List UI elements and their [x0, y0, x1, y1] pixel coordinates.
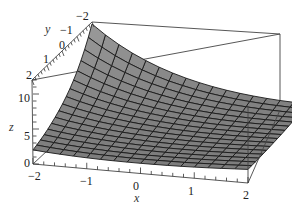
tick-mark — [44, 68, 45, 71]
tick-mark — [53, 60, 54, 63]
tick-mark — [65, 48, 66, 51]
tick-mark — [77, 37, 79, 42]
x-tick-label-neg2: −2 — [28, 169, 41, 183]
x-tick-label-1: 1 — [188, 184, 194, 198]
tick-mark — [59, 54, 60, 57]
tick-mark — [41, 71, 42, 74]
y-tick-label-0: 0 — [59, 38, 65, 52]
tick-mark — [89, 25, 90, 28]
tick-mark — [47, 66, 49, 71]
tick-mark — [56, 57, 57, 60]
z-tick-label-0: 0 — [24, 156, 30, 170]
y-tick-label-2: 2 — [26, 68, 32, 82]
tick-mark — [50, 63, 51, 66]
z-tick-label-5: 5 — [24, 129, 30, 143]
x-tick-label-neg1: −1 — [80, 174, 93, 188]
z-axis-label: z — [8, 120, 14, 134]
tick-mark — [80, 34, 81, 37]
tick-mark — [38, 74, 39, 77]
tick-mark — [74, 39, 75, 42]
tick-mark — [68, 45, 69, 48]
tick-mark — [71, 42, 72, 45]
y-tick-label-neg2: −2 — [76, 9, 89, 23]
z-tick-label-10: 10 — [18, 91, 30, 105]
surface-mesh — [33, 24, 292, 169]
y-tick-label-1: 1 — [43, 52, 49, 66]
x-axis-label: x — [133, 191, 140, 205]
y-axis-label: y — [44, 22, 51, 36]
tick-mark — [86, 28, 87, 31]
tick-mark — [83, 31, 84, 34]
y-tick-label-neg1: −1 — [60, 23, 73, 37]
surface-plot-3d: −2 −1 0 1 2 y 10 5 0 z −2 −1 0 1 2 x — [0, 0, 292, 209]
x-tick-label-2: 2 — [243, 188, 249, 202]
